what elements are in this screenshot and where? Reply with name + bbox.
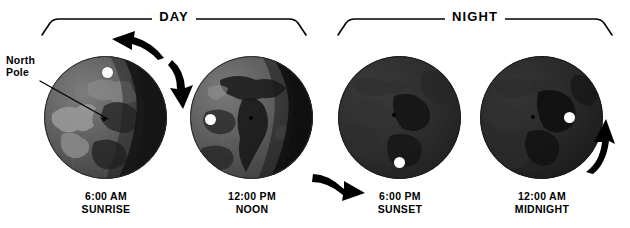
day-bracket-label-wrap: DAY [40,10,308,24]
globe-sunrise [44,56,167,179]
day-bracket-label: DAY [152,9,196,24]
globe-noon [190,56,313,179]
observer-marker-sunrise [102,67,113,78]
night-bracket-label-wrap: NIGHT [336,10,614,24]
north-pole-point-sunset [392,113,396,117]
caption-noon: 12:00 PM NOON [182,190,322,215]
caption-midnight: 12:00 AM MIDNIGHT [472,190,612,215]
caption-sunset-time: 6:00 PM [330,190,470,203]
night-bracket-label: NIGHT [445,9,505,24]
observer-marker-midnight [564,112,575,123]
north-pole-label-line-2: Pole [6,66,35,78]
caption-sunset: 6:00 PM SUNSET [330,190,470,215]
rotation-arrow-upper-right-icon [584,118,616,174]
caption-sunrise: 6:00 AM SUNRISE [36,190,176,215]
caption-noon-phase: NOON [182,203,322,216]
caption-sunrise-phase: SUNRISE [36,203,176,216]
caption-noon-time: 12:00 PM [182,190,322,203]
day-section-bracket: DAY [40,8,308,36]
earth-rotation-diagram: DAY NIGHT [0,0,630,228]
north-pole-label-line-1: North [6,54,35,66]
rotation-arrow-down-icon [168,58,200,110]
rotation-arrow-upper-left-icon [108,30,166,60]
north-pole-point-midnight [531,115,535,119]
caption-sunrise-time: 6:00 AM [36,190,176,203]
caption-sunset-phase: SUNSET [330,203,470,216]
north-pole-point-sunrise [102,117,106,121]
caption-midnight-time: 12:00 AM [472,190,612,203]
night-section-bracket: NIGHT [336,8,614,36]
north-pole-point-noon [249,116,253,120]
globe-sunset [338,56,461,179]
observer-marker-sunset [394,157,405,168]
caption-midnight-phase: MIDNIGHT [472,203,612,216]
north-pole-label: North Pole [6,54,35,78]
observer-marker-noon [205,114,216,125]
